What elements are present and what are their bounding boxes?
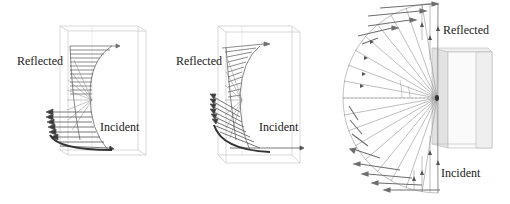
panel-1-graphic <box>0 0 170 204</box>
angle-markers <box>400 80 410 98</box>
reflected-arrows <box>358 2 438 44</box>
reflected-label: Reflected <box>17 55 63 67</box>
panel-3-ray-fan: Reflected Incident <box>340 0 510 204</box>
reflected-label: Reflected <box>176 55 222 67</box>
panel-1-vector-field: Reflected Incident <box>0 0 170 204</box>
incident-label: Incident <box>259 121 298 133</box>
incident-label: Incident <box>441 167 480 179</box>
reflected-arrows <box>70 44 120 94</box>
incident-arrows <box>349 106 440 192</box>
panel-2-graphic <box>170 0 340 204</box>
panel-2-vector-field: Reflected Incident <box>170 0 340 204</box>
incident-label: Incident <box>100 121 139 133</box>
reflected-label: Reflected <box>443 24 489 36</box>
radial-fan <box>67 60 92 130</box>
focal-point <box>435 95 439 101</box>
box-shaded <box>432 48 492 148</box>
